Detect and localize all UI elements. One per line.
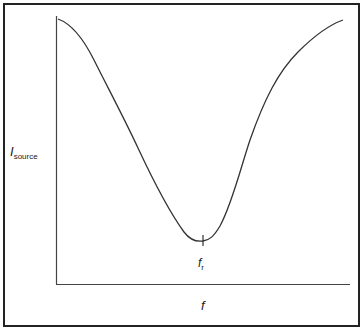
resonant-frequency-label: fr — [198, 256, 204, 270]
resonant-frequency-label-subscript: r — [201, 263, 204, 272]
y-axis-label: Isource — [10, 144, 38, 159]
x-axis-label: f — [201, 298, 205, 313]
source-current-curve — [58, 19, 343, 241]
plot-area — [0, 0, 363, 332]
y-axis-label-subscript: source — [14, 152, 38, 161]
